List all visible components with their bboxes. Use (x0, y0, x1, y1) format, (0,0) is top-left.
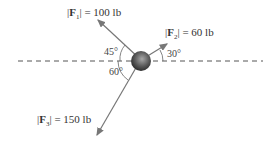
force-f2-arrow (146, 44, 167, 57)
angle-arc-30 (160, 50, 163, 61)
f1-label: |F1| = 100 lb (67, 6, 121, 21)
angle-arc-45 (120, 45, 125, 61)
particle-sphere (131, 51, 151, 71)
f3-label: |F3| = 150 lb (37, 113, 91, 128)
f2-label: |F2| = 60 lb (165, 26, 214, 41)
angle-label-60: 60° (109, 66, 123, 77)
angle-label-30: 30° (167, 48, 181, 59)
angle-label-45: 45° (104, 46, 118, 57)
